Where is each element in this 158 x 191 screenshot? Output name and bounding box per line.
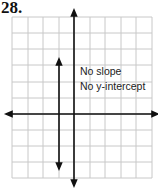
coordinate-grid xyxy=(0,0,158,191)
grid-lines xyxy=(12,17,152,178)
x-axis xyxy=(6,112,158,117)
annotation-no-y-intercept: No y-intercept xyxy=(80,80,145,92)
annotation-no-slope: No slope xyxy=(80,65,121,77)
